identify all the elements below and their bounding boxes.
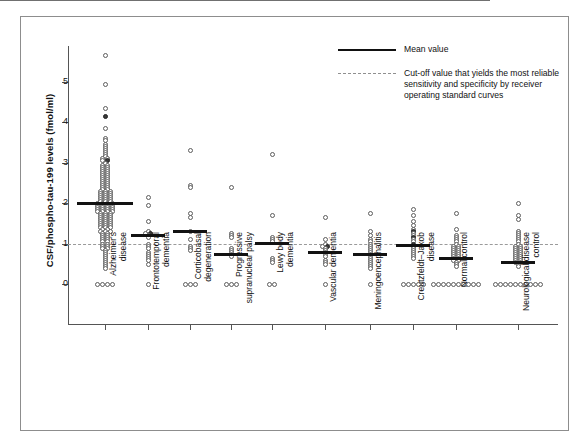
legend: Mean valueCut-off value that yields the … — [338, 44, 563, 114]
data-point — [103, 82, 108, 87]
data-point — [188, 282, 193, 287]
y-axis-line — [68, 46, 69, 324]
category-label-line: degeneration — [204, 232, 214, 336]
x-tick-mark — [518, 324, 519, 330]
y-axis-title: CSF/phospho-tau-199 levels (fmol/ml) — [44, 56, 55, 306]
data-point — [411, 282, 416, 287]
legend-item: Mean value — [338, 44, 563, 55]
data-point — [323, 215, 328, 220]
x-category-label: Frontotemporaldementia — [152, 232, 171, 336]
category-label-line: supranuclear palsy — [245, 232, 255, 336]
x-category-label: Vascular dementia — [329, 232, 339, 336]
data-point — [188, 148, 193, 153]
data-point — [188, 215, 193, 220]
x-tick-mark — [148, 324, 149, 330]
data-point — [146, 219, 151, 224]
x-tick-mark — [231, 324, 232, 330]
x-category-label: Normal control — [460, 232, 470, 336]
x-category-label: Creutzfeldt–Jakobdisease — [417, 232, 436, 336]
x-category-label: Progressivesupranuclear palsy — [235, 232, 254, 336]
category-label-line: dementia — [286, 232, 296, 336]
x-category-label: Alzheimer'sdisease — [109, 232, 128, 336]
data-point — [146, 203, 151, 208]
legend-item-label: Cut-off value that yields the most relia… — [404, 68, 563, 101]
data-point — [411, 213, 416, 218]
category-label-line: dementia — [162, 232, 172, 336]
x-tick-mark — [413, 324, 414, 330]
x-tick-mark — [370, 324, 371, 330]
x-tick-mark — [325, 324, 326, 330]
data-point — [183, 282, 188, 287]
x-tick-mark — [456, 324, 457, 330]
category-label-line: disease — [427, 232, 437, 336]
x-category-label: Lewy bodydementia — [276, 232, 295, 336]
category-label-line: control — [532, 232, 542, 336]
x-tick-mark — [190, 324, 191, 330]
legend-item-label: Mean value — [404, 44, 563, 55]
data-point-filled — [103, 114, 108, 119]
data-point — [454, 227, 459, 232]
data-point — [368, 282, 373, 287]
category-label-line: Normal control — [460, 232, 470, 336]
data-point — [454, 211, 459, 216]
data-point — [224, 282, 229, 287]
data-point — [103, 53, 108, 58]
x-axis-line — [68, 324, 558, 325]
x-tick-mark — [105, 324, 106, 330]
x-category-label: Meningoencephalitis — [374, 232, 384, 336]
data-point — [401, 282, 406, 287]
data-point — [411, 256, 416, 261]
data-point — [229, 235, 234, 240]
data-point — [406, 282, 411, 287]
data-point — [188, 237, 193, 242]
data-point — [270, 152, 275, 157]
data-point — [516, 201, 521, 206]
figure-panel: 012345 Alzheimer'sdiseaseFrontotemporald… — [0, 0, 587, 446]
category-label-line: Vascular dementia — [329, 232, 339, 336]
solid-line-icon — [338, 49, 396, 51]
data-point — [516, 217, 521, 222]
mean-value-bar — [77, 202, 133, 205]
data-point — [323, 282, 328, 287]
zero-reference-line — [0, 0, 490, 1]
dashed-line-icon — [338, 73, 396, 74]
data-point — [368, 211, 373, 216]
data-point — [454, 264, 459, 269]
data-point — [270, 260, 275, 265]
data-point — [323, 262, 328, 267]
x-category-label: Corticobasaldegeneration — [194, 232, 213, 336]
category-label-line: disease — [119, 232, 129, 336]
data-point — [146, 195, 151, 200]
data-point — [103, 126, 108, 131]
data-point — [146, 282, 151, 287]
legend-item: Cut-off value that yields the most relia… — [338, 68, 563, 101]
data-point — [323, 237, 328, 242]
data-point — [103, 106, 108, 111]
data-point — [146, 262, 151, 267]
data-point — [368, 266, 373, 271]
data-point — [188, 185, 193, 190]
category-label-line: Meningoencephalitis — [374, 232, 384, 336]
data-point — [476, 282, 481, 287]
cutoff-dashed-line — [68, 244, 558, 245]
x-category-label: Neurological diseasecontrol — [522, 232, 541, 336]
data-point — [411, 207, 416, 212]
data-point — [229, 282, 234, 287]
data-point — [229, 185, 234, 190]
x-tick-mark — [272, 324, 273, 330]
data-point — [270, 213, 275, 218]
data-point — [103, 266, 108, 271]
data-point — [188, 248, 193, 253]
